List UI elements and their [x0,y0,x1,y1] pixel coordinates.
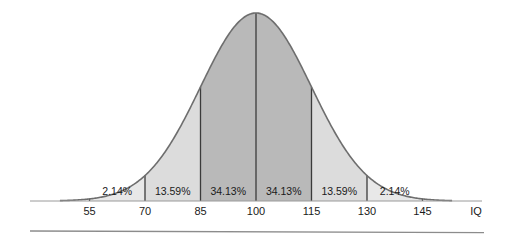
x-axis-title: IQ [470,205,482,217]
x-tick-label-85: 85 [194,205,206,217]
band-label-0: 2.14% [102,185,132,197]
band-label-5: 2.14% [380,185,410,197]
x-tick-label-70: 70 [139,205,151,217]
x-tick-label-130: 130 [358,205,376,217]
band-label-1: 13.59% [155,185,191,197]
x-tick-label-100: 100 [247,205,265,217]
band-area-2 [201,13,257,201]
band-dividers [90,13,423,201]
band-label-3: 34.13% [266,185,302,197]
x-axis-tick-labels: 55 70 85 100 115 130 145 [83,205,431,217]
normal-distribution-chart: 2.14% 13.59% 34.13% 34.13% 13.59% 2.14% … [0,0,507,241]
footer-rule [30,231,484,233]
band-label-4: 13.59% [321,185,357,197]
x-tick-label-115: 115 [303,205,321,217]
x-tick-label-55: 55 [83,205,95,217]
band-area-3 [256,13,312,201]
bell-curve-figure: 2.14% 13.59% 34.13% 34.13% 13.59% 2.14% … [0,0,507,241]
band-label-2: 34.13% [210,185,246,197]
x-tick-label-145: 145 [413,205,431,217]
